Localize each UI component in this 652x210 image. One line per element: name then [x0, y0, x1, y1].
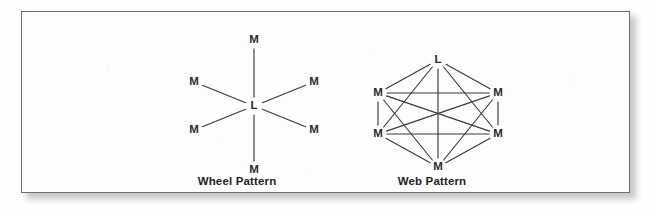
wheel-spoke-4 — [262, 109, 305, 126]
web-pattern-caption: Web Pattern — [312, 175, 552, 187]
wheel-spoke-1 — [202, 85, 245, 102]
wheel-spoke-2 — [262, 85, 305, 102]
wheel-center-node-label: L — [250, 99, 257, 111]
web-node-label-0: L — [434, 53, 441, 65]
web-edge-13 — [386, 138, 430, 162]
wheel-outer-node-label-0: M — [249, 33, 259, 45]
web-node-label-5: M — [433, 160, 443, 172]
web-edge-1 — [446, 64, 490, 88]
web-node-label-1: M — [373, 86, 383, 98]
figure-frame: LMMMMMM Wheel Pattern LMMMMM Web Pattern — [21, 11, 630, 193]
web-edge-14 — [446, 138, 490, 162]
figure-root: LMMMMMM Wheel Pattern LMMMMM Web Pattern — [0, 0, 652, 210]
wheel-outer-node-label-5: M — [249, 163, 259, 175]
web-node-label-4: M — [493, 127, 503, 139]
web-node-label-2: M — [493, 86, 503, 98]
wheel-outer-node-label-1: M — [189, 75, 199, 87]
web-pattern-graph: LMMMMM — [312, 12, 552, 194]
wheel-spoke-3 — [202, 109, 245, 126]
web-edge-0 — [386, 64, 430, 88]
web-node-label-3: M — [373, 127, 383, 139]
web-pattern-diagram: LMMMMM Web Pattern — [312, 12, 552, 194]
wheel-outer-node-label-3: M — [189, 123, 199, 135]
